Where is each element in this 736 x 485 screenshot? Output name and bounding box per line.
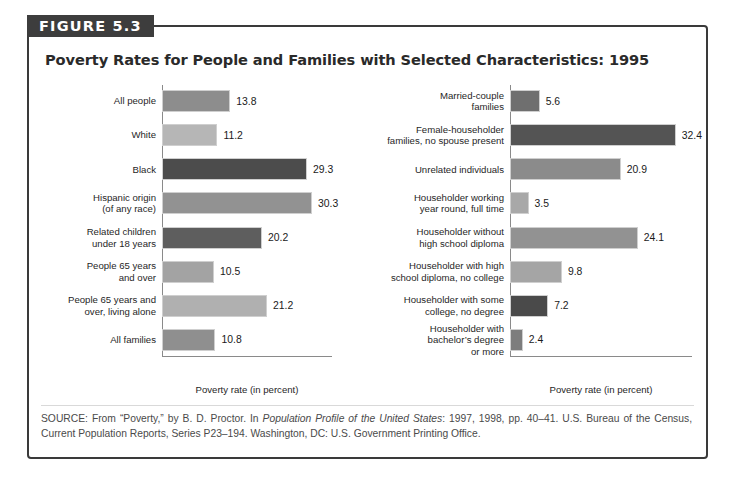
bar-category-label: Householder with highschool diploma, no …: [362, 260, 510, 283]
bar-value-label: 30.3: [312, 198, 338, 209]
bar-row: All people13.8: [37, 88, 362, 114]
plot-area-left: All people13.8White11.2Black29.3Hispanic…: [37, 85, 362, 373]
bar-row: Married-couplefamilies5.6: [362, 88, 702, 114]
bar: [162, 192, 312, 214]
bar: [510, 90, 540, 112]
bar-container: 10.8: [162, 329, 362, 351]
bar-container: 32.4: [510, 124, 702, 146]
bar-container: 7.2: [510, 295, 702, 317]
bar: [510, 261, 562, 283]
figure-title: Poverty Rates for People and Families wi…: [45, 51, 649, 68]
bar-value-label: 32.4: [676, 130, 702, 141]
bar-value-label: 5.6: [540, 96, 560, 107]
bar-container: 20.9: [510, 158, 702, 180]
bar: [162, 261, 214, 283]
bar-row: Related childrenunder 18 years20.2: [37, 225, 362, 251]
bar: [162, 329, 215, 351]
bar-category-label: Householder with somecollege, no degree: [362, 294, 510, 317]
bar-category-label: Married-couplefamilies: [362, 90, 510, 113]
bar-value-label: 11.2: [217, 130, 242, 141]
bar-row: Householder workingyear round, full time…: [362, 190, 702, 216]
bar-value-label: 10.8: [215, 334, 241, 345]
bar-value-label: 2.4: [523, 334, 543, 345]
bar: [510, 227, 638, 249]
chart-panel-right: Married-couplefamilies5.6Female-househol…: [362, 85, 702, 395]
source-note: SOURCE: From “Poverty,” by B. D. Proctor…: [41, 412, 692, 441]
figure-number-badge: FIGURE 5.3: [27, 15, 154, 37]
figure-card: FIGURE 5.3 Poverty Rates for People and …: [27, 25, 708, 459]
bar-category-label: Female-householderfamilies, no spouse pr…: [362, 124, 510, 147]
plot-area-right: Married-couplefamilies5.6Female-househol…: [362, 85, 702, 373]
bar-category-label: Householder withbachelor’s degreeor more: [362, 323, 510, 357]
bar-row: Householder withouthigh school diploma24…: [362, 225, 702, 251]
bar-container: 9.8: [510, 261, 702, 283]
bar-container: 13.8: [162, 90, 362, 112]
bar-value-label: 24.1: [638, 232, 664, 243]
bar-category-label: Related childrenunder 18 years: [37, 226, 162, 249]
x-axis-title-left: Poverty rate (in percent): [162, 384, 332, 395]
bar-value-label: 3.5: [529, 198, 549, 209]
bar-row: People 65 years andover, living alone21.…: [37, 293, 362, 319]
bar-row: Hispanic origin(of any race)30.3: [37, 190, 362, 216]
bar-category-label: All families: [37, 334, 162, 345]
source-publication-title: Population Profile of the United States: [263, 413, 443, 424]
bar-container: 24.1: [510, 227, 702, 249]
source-divider: [41, 405, 694, 406]
bar-row: Householder withbachelor’s degreeor more…: [362, 327, 702, 353]
bar: [510, 192, 529, 214]
bar-row: Householder with somecollege, no degree7…: [362, 293, 702, 319]
bar: [162, 90, 230, 112]
bar-row: Householder with highschool diploma, no …: [362, 259, 702, 285]
bar: [162, 295, 267, 317]
bar-category-label: People 65 years andover, living alone: [37, 294, 162, 317]
bar-category-label: Unrelated individuals: [362, 164, 510, 175]
chart-panel-left: All people13.8White11.2Black29.3Hispanic…: [37, 85, 362, 395]
bar: [510, 158, 621, 180]
bar-row: Unrelated individuals20.9: [362, 156, 702, 182]
bar-rows-left: All people13.8White11.2Black29.3Hispanic…: [37, 85, 362, 357]
bar-container: 3.5: [510, 192, 702, 214]
bar: [510, 329, 523, 351]
bar-row: White11.2: [37, 122, 362, 148]
bar-row: All families10.8: [37, 327, 362, 353]
bar-container: 5.6: [510, 90, 702, 112]
bar-value-label: 10.5: [214, 266, 240, 277]
bar-value-label: 29.3: [307, 164, 333, 175]
bar-value-label: 20.2: [262, 232, 288, 243]
bar-value-label: 13.8: [230, 96, 256, 107]
bar-category-label: Householder withouthigh school diploma: [362, 226, 510, 249]
bar: [510, 295, 548, 317]
bar-value-label: 7.2: [548, 300, 568, 311]
bar-row: Female-householderfamilies, no spouse pr…: [362, 122, 702, 148]
bar: [162, 227, 262, 249]
bar-container: 29.3: [162, 158, 362, 180]
bar-value-label: 9.8: [562, 266, 582, 277]
bar-row: Black29.3: [37, 156, 362, 182]
bar-container: 30.3: [162, 192, 362, 214]
bar-category-label: White: [37, 129, 162, 140]
bar-category-label: All people: [37, 95, 162, 106]
bar-value-label: 20.9: [621, 164, 647, 175]
bar-container: 10.5: [162, 261, 362, 283]
badge-rule: [175, 25, 205, 27]
bar: [162, 124, 217, 146]
bar-value-label: 21.2: [267, 300, 293, 311]
bar-category-label: Black: [37, 164, 162, 175]
bar-container: 11.2: [162, 124, 362, 146]
bar-rows-right: Married-couplefamilies5.6Female-househol…: [362, 85, 702, 357]
bar: [162, 158, 307, 180]
bar-category-label: People 65 yearsand over: [37, 260, 162, 283]
bar-container: 20.2: [162, 227, 362, 249]
x-axis-title-right: Poverty rate (in percent): [510, 384, 692, 395]
bar-category-label: Householder workingyear round, full time: [362, 192, 510, 215]
bar: [510, 124, 676, 146]
bar-container: 21.2: [162, 295, 362, 317]
bar-category-label: Hispanic origin(of any race): [37, 192, 162, 215]
bar-row: People 65 yearsand over10.5: [37, 259, 362, 285]
bar-container: 2.4: [510, 329, 702, 351]
